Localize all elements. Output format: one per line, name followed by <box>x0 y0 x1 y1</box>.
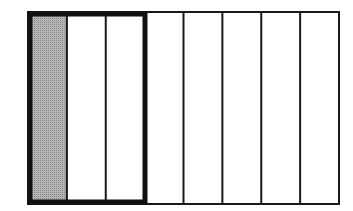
divider-lines <box>67 12 300 204</box>
shaded-part <box>31 15 68 202</box>
fraction-diagram <box>0 0 353 211</box>
